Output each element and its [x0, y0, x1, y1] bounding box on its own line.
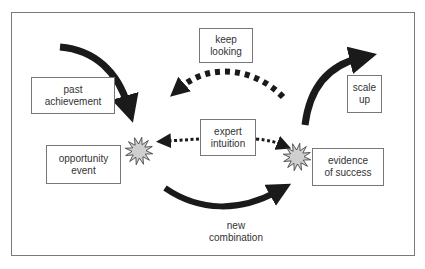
node-opportunity-event: opportunity event [46, 145, 121, 184]
arrow-new-combination [165, 188, 278, 206]
opportunity-burst-icon [125, 137, 152, 164]
success-burst-icon [283, 143, 310, 170]
label-new-combination: new combination [200, 220, 272, 244]
node-expert-intuition: expert intuition [200, 119, 256, 156]
arrow-intuition-to-evidence [256, 139, 280, 144]
node-past-achievement: past achievement [31, 77, 115, 114]
node-keep-looking: keep looking [199, 28, 253, 63]
arrow-intuition-to-opportunity [168, 139, 199, 141]
node-scale-up: scale up [347, 75, 382, 113]
node-evidence-of-success: evidence of success [312, 148, 384, 186]
arrow-keep-looking [180, 71, 283, 97]
